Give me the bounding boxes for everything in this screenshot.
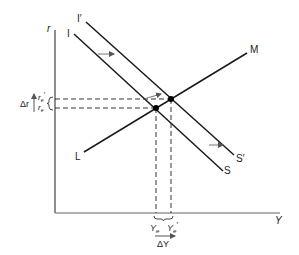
- lm-curve: L M: [75, 44, 258, 162]
- delta-y-label: ΔY: [157, 239, 169, 249]
- x-axis-label: Y: [275, 215, 283, 226]
- equilibrium-point-original: [153, 105, 159, 111]
- svg-text:Ye: Ye: [150, 223, 160, 234]
- dashed-guides: [55, 99, 171, 213]
- y-brace: [154, 216, 173, 221]
- income-change: Ye Ye′ ΔY: [150, 216, 178, 249]
- svg-text:re: re: [38, 103, 44, 113]
- svg-text:Ye′: Ye′: [167, 220, 178, 234]
- is-label-bottom: S: [224, 165, 231, 176]
- shift-arrow-mid: [147, 94, 161, 98]
- is-curve-original: I S: [67, 28, 231, 176]
- lm-label-start: L: [75, 151, 81, 162]
- equilibrium-point-new: [168, 96, 174, 102]
- is-label-top: I: [67, 28, 70, 39]
- r-brace: [47, 97, 53, 110]
- is-shifted-label-top: I′: [77, 13, 82, 24]
- interest-rate-change: Δr re′ re: [20, 91, 53, 113]
- svg-text:re′: re′: [38, 91, 45, 103]
- is-lm-diagram: r Y I S I′ S′ L M Δr re′: [0, 0, 299, 255]
- delta-r-label: Δr: [20, 99, 29, 109]
- lm-label-end: M: [250, 44, 258, 55]
- axes: r Y: [47, 23, 283, 226]
- y-axis-label: r: [47, 23, 51, 34]
- is-shifted-label-bottom: S′: [236, 153, 245, 164]
